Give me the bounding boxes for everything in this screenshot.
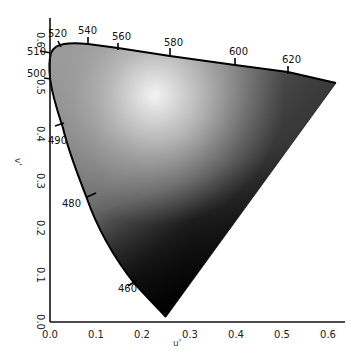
- wavelength-label: 580: [164, 37, 183, 48]
- wavelength-label: 480: [62, 198, 81, 209]
- y-tick-label: 0.5: [35, 79, 46, 95]
- x-tick-labels: 0.00.10.20.30.40.50.6: [42, 329, 336, 340]
- x-tick-label: 0.6: [320, 329, 336, 340]
- wavelength-label: 620: [282, 54, 301, 65]
- x-tick-label: 0.5: [274, 329, 290, 340]
- wavelength-label: 520: [48, 28, 67, 39]
- x-tick-label: 0.0: [42, 329, 58, 340]
- wavelength-label: 540: [78, 25, 97, 36]
- spectral-locus-fill: [40, 35, 350, 325]
- y-tick-label: 0.3: [35, 173, 46, 189]
- y-tick-label: 0.0: [35, 314, 46, 330]
- x-tick-label: 0.4: [228, 329, 244, 340]
- wavelength-label: 600: [229, 46, 248, 57]
- wavelength-label: 560: [112, 31, 131, 42]
- wavelength-label: 510: [27, 46, 46, 57]
- y-tick-label: 0.1: [35, 267, 46, 283]
- y-axis-title: v': [13, 158, 23, 166]
- y-tick-label: 0.4: [35, 126, 46, 142]
- chromaticity-chart: 0.00.10.20.30.40.50.6 0.00.10.20.30.40.5…: [0, 0, 361, 362]
- wavelength-label: 460: [118, 283, 137, 294]
- x-axis-title: u': [173, 338, 181, 348]
- x-tick-label: 0.3: [182, 329, 198, 340]
- wavelength-label: 500: [27, 68, 46, 79]
- y-tick-label: 0.2: [35, 220, 46, 236]
- wavelength-label: 490: [48, 135, 67, 146]
- x-tick-label: 0.1: [88, 329, 104, 340]
- x-tick-label: 0.2: [134, 329, 150, 340]
